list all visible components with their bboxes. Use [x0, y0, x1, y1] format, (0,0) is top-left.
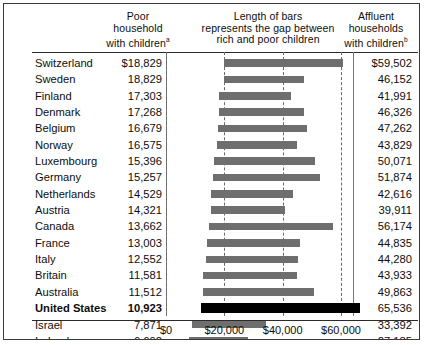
column-header-poor-line3: with children [106, 37, 166, 49]
affluent-value: 46,152 [356, 72, 412, 86]
affluent-value: 49,863 [356, 285, 412, 299]
affluent-value: 50,071 [356, 154, 412, 168]
affluent-value: 43,829 [356, 138, 412, 152]
table-row: France13,00344,835 [4, 235, 419, 251]
gap-bar [207, 239, 300, 247]
poor-value: 13,662 [82, 219, 162, 233]
table-row: Belgium16,67947,262 [4, 120, 419, 136]
affluent-value: 41,991 [356, 89, 412, 103]
column-header-poor-line2: household [113, 22, 162, 34]
table-row: Finland17,30341,991 [4, 88, 419, 104]
column-header-affluent-line3: with children [344, 37, 404, 49]
affluent-value: 44,835 [356, 236, 412, 250]
gap-bar [224, 76, 304, 84]
table-row: Italy12,55244,280 [4, 251, 419, 267]
table-row: Australia11,51249,863 [4, 284, 419, 300]
table-header: Poor household with childrena Length of … [4, 4, 419, 51]
affluent-value: 39,911 [356, 203, 412, 217]
affluent-value: 44,280 [356, 252, 412, 266]
chart-rows: Switzerland$18,829$59,502Sweden18,82946,… [4, 55, 419, 340]
country-label: Sweden [35, 72, 75, 86]
gap-bar [213, 174, 320, 182]
axis-rule [32, 320, 418, 321]
footnote-marker-a: a [166, 36, 170, 43]
axis-tick-label: $60,000 [306, 324, 376, 336]
affluent-value: 47,262 [356, 121, 412, 135]
column-header-affluent-line2: households [349, 22, 404, 34]
affluent-value: 42,616 [356, 187, 412, 201]
gap-bar [189, 337, 249, 340]
affluent-value: 65,536 [356, 301, 412, 315]
table-row: Britain11,58143,933 [4, 267, 419, 283]
gap-bar [203, 288, 315, 296]
poor-value: 18,829 [82, 72, 162, 86]
table-row: Denmark17,26846,326 [4, 104, 419, 120]
gap-bar [224, 59, 343, 67]
country-label: Australia [35, 285, 79, 299]
column-header-bars-line1: Length of bars [234, 10, 303, 22]
poor-value: 14,529 [82, 187, 162, 201]
country-label: Britain [35, 268, 67, 282]
affluent-value: 43,933 [356, 268, 412, 282]
poor-value: 12,552 [82, 252, 162, 266]
affluent-value: 46,326 [356, 105, 412, 119]
gap-bar [217, 141, 296, 149]
country-label: France [35, 236, 70, 250]
affluent-value: $59,502 [356, 56, 412, 70]
poor-value: $18,829 [82, 56, 162, 70]
table-row: Switzerland$18,829$59,502 [4, 55, 419, 71]
table-row: Sweden18,82946,152 [4, 71, 419, 87]
country-label: Italy [35, 252, 56, 266]
poor-value: 16,679 [82, 121, 162, 135]
column-header-poor: Poor household with childrena [92, 11, 184, 49]
poor-value: 10,923 [82, 301, 162, 315]
poor-value: 17,303 [82, 89, 162, 103]
poor-value: 14,321 [82, 203, 162, 217]
country-label: Denmark [35, 105, 80, 119]
affluent-value: 51,874 [356, 170, 412, 184]
gap-bar [211, 206, 286, 214]
country-label: Norway [35, 138, 73, 152]
poor-value: 15,257 [82, 170, 162, 184]
country-label: Finland [35, 89, 72, 103]
header-divider [32, 52, 418, 53]
poor-value: 13,003 [82, 236, 162, 250]
footnote-marker-b: b [404, 36, 408, 43]
table-row: Netherlands14,52942,616 [4, 186, 419, 202]
gap-bar [206, 256, 299, 264]
gap-bar [201, 303, 360, 312]
gap-bar [219, 108, 304, 116]
chart-frame: Poor household with childrena Length of … [3, 3, 420, 340]
poor-value: 15,396 [82, 154, 162, 168]
gap-bar [219, 92, 291, 100]
table-row: Germany15,25751,874 [4, 169, 419, 185]
country-label: Belgium [35, 121, 75, 135]
country-label: Austria [35, 203, 70, 217]
gap-bar [209, 223, 333, 231]
table-row: Luxembourg15,39650,071 [4, 153, 419, 169]
gap-bar [211, 190, 293, 198]
poor-value: 16,575 [82, 138, 162, 152]
poor-value: 17,268 [82, 105, 162, 119]
table-row: United States10,92365,536 [4, 300, 419, 316]
country-label: Germany [35, 170, 81, 184]
gap-bar [214, 157, 315, 165]
affluent-value: 56,174 [356, 219, 412, 233]
column-header-affluent-line1: Affluent [358, 10, 394, 22]
column-header-bars-line3: rich and poor children [216, 33, 319, 45]
country-label: Canada [35, 219, 74, 233]
table-row: Norway16,57543,829 [4, 137, 419, 153]
column-header-poor-line1: Poor [127, 10, 150, 22]
poor-value: 11,581 [82, 268, 162, 282]
gap-bar [203, 272, 297, 280]
gap-bar [218, 125, 307, 133]
poor-value: 11,512 [82, 285, 162, 299]
table-row: Canada13,66256,174 [4, 218, 419, 234]
column-header-affluent: Affluent households with childrenb [334, 11, 418, 49]
column-header-bars-line2: represents the gap between [202, 22, 335, 34]
country-label: Ireland [35, 334, 69, 340]
column-header-bars: Length of bars represents the gap betwee… [186, 11, 350, 46]
table-row: Austria14,32139,911 [4, 202, 419, 218]
